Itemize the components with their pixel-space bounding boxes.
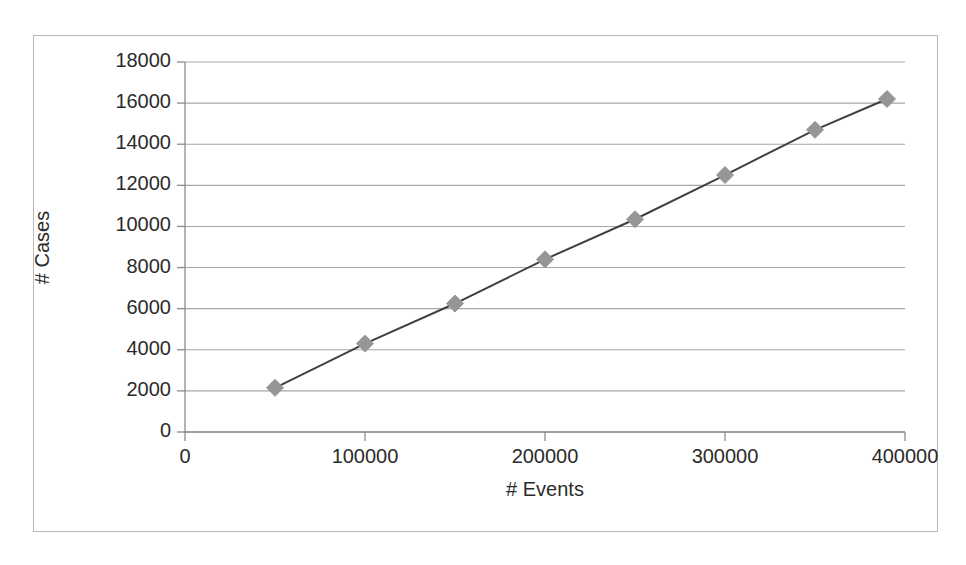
y-axis-tick-label: 10000: [61, 213, 171, 236]
y-axis-tick-label: 16000: [61, 90, 171, 113]
y-axis-tick-label: 12000: [61, 172, 171, 195]
x-axis-title: # Events: [400, 478, 690, 501]
data-point-marker: [537, 251, 554, 268]
data-point-marker: [879, 91, 896, 108]
y-axis-tick-label: 4000: [61, 337, 171, 360]
data-point-marker: [717, 167, 734, 184]
data-point-marker: [447, 295, 464, 312]
y-axis-tick-label: 18000: [61, 49, 171, 72]
data-point-marker: [267, 379, 284, 396]
y-axis-tick-label: 14000: [61, 131, 171, 154]
gridlines: [185, 62, 905, 432]
x-axis-tick-label: 0: [115, 445, 255, 468]
axis-lines: [185, 62, 905, 432]
data-point-marker: [807, 121, 824, 138]
y-axis-title: # Cases: [31, 178, 54, 318]
x-axis-tick-label: 200000: [475, 445, 615, 468]
y-axis-tick-label: 6000: [61, 296, 171, 319]
data-point-marker: [627, 211, 644, 228]
x-axis-ticks: [185, 432, 905, 441]
y-axis-tick-label: 8000: [61, 255, 171, 278]
y-axis-tick-label: 0: [61, 419, 171, 442]
x-axis-tick-label: 300000: [655, 445, 795, 468]
y-axis-ticks: [177, 62, 185, 432]
y-axis-tick-label: 2000: [61, 378, 171, 401]
x-axis-tick-label: 400000: [835, 445, 966, 468]
x-axis-tick-label: 100000: [295, 445, 435, 468]
